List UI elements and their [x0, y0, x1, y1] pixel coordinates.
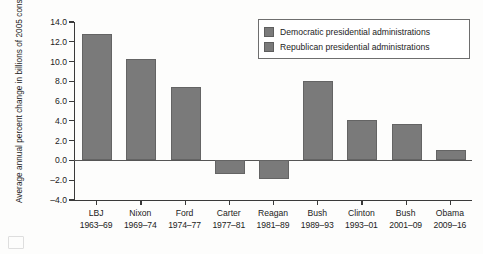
legend-swatch-democratic-icon: [264, 27, 274, 37]
x-category-name: Reagan: [251, 208, 295, 220]
x-tick-mark: [361, 200, 362, 205]
x-tick-mark: [406, 200, 407, 205]
x-category-name: Ford: [162, 208, 206, 220]
bar: [347, 120, 377, 161]
bar-chart-figure: Average annual percent change in billion…: [0, 0, 483, 254]
bar: [82, 34, 112, 161]
bar: [436, 150, 466, 161]
y-tick-mark: [69, 160, 74, 161]
x-category-label: Bush2001–09: [384, 208, 428, 231]
x-category-name: Bush: [295, 208, 339, 220]
y-tick-label: –2.0: [50, 175, 67, 185]
legend-item-democratic: Democratic presidential administrations: [264, 24, 463, 39]
x-category-years: 1989–93: [295, 220, 339, 232]
x-tick-mark: [229, 200, 230, 205]
legend-swatch-republican-icon: [264, 42, 274, 52]
y-tick-label: 14.0: [50, 17, 67, 27]
x-category-years: 1963–69: [74, 220, 118, 232]
x-category-years: 1993–01: [339, 220, 383, 232]
x-category-label: Nixon1969–74: [118, 208, 162, 231]
y-tick-mark: [69, 140, 74, 141]
y-tick-label: 12.0: [50, 37, 67, 47]
legend-item-republican: Republican presidential administrations: [264, 39, 463, 54]
legend-label-republican: Republican presidential administrations: [280, 42, 430, 52]
x-category-years: 2001–09: [384, 220, 428, 232]
x-category-label: Obama2009–16: [428, 208, 472, 231]
x-category-label: Clinton1993–01: [339, 208, 383, 231]
x-category-name: LBJ: [74, 208, 118, 220]
y-tick-label: 2.0: [55, 136, 67, 146]
x-category-label: Bush1989–93: [295, 208, 339, 231]
x-category-label: LBJ1963–69: [74, 208, 118, 231]
y-tick-label: 10.0: [50, 57, 67, 67]
x-category-name: Nixon: [118, 208, 162, 220]
x-tick-mark: [140, 200, 141, 205]
x-category-name: Bush: [384, 208, 428, 220]
legend-label-democratic: Democratic presidential administrations: [280, 27, 430, 37]
scan-artifact: [8, 236, 24, 249]
y-tick-mark: [69, 180, 74, 181]
bar: [259, 160, 289, 179]
y-tick-mark: [69, 61, 74, 62]
x-tick-mark: [273, 200, 274, 205]
bar: [126, 59, 156, 161]
x-category-label: Carter1977–81: [207, 208, 251, 231]
x-tick-mark: [317, 200, 318, 205]
x-category-years: 1974–77: [162, 220, 206, 232]
x-tick-mark: [185, 200, 186, 205]
x-category-years: 1977–81: [207, 220, 251, 232]
y-axis-title: Average annual percent change in billion…: [2, 14, 36, 204]
bar: [215, 160, 245, 174]
y-tick-label: –4.0: [50, 195, 67, 205]
x-category-label: Reagan1981–89: [251, 208, 295, 231]
y-tick-mark: [69, 101, 74, 102]
y-tick-label: 8.0: [55, 76, 67, 86]
x-category-years: 1969–74: [118, 220, 162, 232]
x-category-name: Obama: [428, 208, 472, 220]
y-tick-mark: [69, 41, 74, 42]
x-category-years: 1981–89: [251, 220, 295, 232]
y-tick-mark: [69, 21, 74, 22]
x-tick-mark: [96, 200, 97, 205]
y-tick-label: 6.0: [55, 96, 67, 106]
x-category-label: Ford1974–77: [162, 208, 206, 231]
bar: [171, 87, 201, 160]
x-tick-mark: [450, 200, 451, 205]
y-tick-label: 0.0: [55, 155, 67, 165]
legend: Democratic presidential administrations …: [258, 19, 470, 59]
y-axis-title-text: Average annual percent change in billion…: [14, 15, 25, 203]
bar: [303, 81, 333, 160]
y-tick-label: 4.0: [55, 116, 67, 126]
y-tick-mark: [69, 120, 74, 121]
x-category-name: Clinton: [339, 208, 383, 220]
bar: [392, 124, 422, 161]
x-category-name: Carter: [207, 208, 251, 220]
x-category-years: 2009–16: [428, 220, 472, 232]
y-tick-mark: [69, 81, 74, 82]
